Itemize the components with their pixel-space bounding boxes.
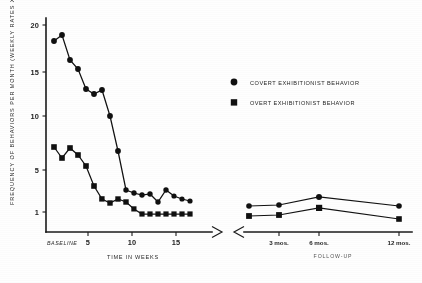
followup-tick-label-12mos: 12 mos. bbox=[387, 239, 410, 246]
x-axis-arrow-icon bbox=[212, 227, 222, 238]
y-tick-label-5: 5 bbox=[35, 166, 39, 175]
y-tick-label-10: 10 bbox=[30, 112, 39, 121]
followup-tick-label-6mos: 6 mos. bbox=[309, 239, 329, 246]
followup-panel-title: FOLLOW-UP bbox=[314, 253, 353, 259]
chart-canvas: 20 15 10 5 1 FREQUENCY OF BEHAVIORS PER … bbox=[0, 0, 422, 283]
series-covert-followup bbox=[246, 194, 402, 209]
series-covert-treatment bbox=[51, 32, 193, 205]
followup-axis-arrow-icon bbox=[234, 227, 244, 238]
figure-container: 20 15 10 5 1 FREQUENCY OF BEHAVIORS PER … bbox=[0, 0, 422, 283]
data-point-group-covert bbox=[51, 32, 193, 205]
legend-label-covert: COVERT EXHIBITIONIST BEHAVIOR bbox=[250, 80, 360, 86]
x-axis-title: TIME IN WEEKS bbox=[107, 254, 159, 260]
chart-legend: COVERT EXHIBITIONIST BEHAVIOR OVERT EXHI… bbox=[231, 79, 360, 107]
legend-square-marker-icon bbox=[231, 99, 237, 105]
legend-circle-marker-icon bbox=[231, 79, 238, 86]
data-point-group-covert-followup bbox=[246, 194, 402, 209]
series-overt-treatment bbox=[51, 144, 192, 216]
y-tick-label-20: 20 bbox=[30, 21, 39, 30]
x-tick-label-5: 5 bbox=[86, 238, 90, 247]
y-tick-label-1: 1 bbox=[35, 208, 39, 217]
baseline-label: BASELINE bbox=[47, 240, 77, 246]
followup-tick-label-3mos: 3 mos. bbox=[269, 239, 289, 246]
followup-axes bbox=[234, 227, 412, 238]
series-overt-followup bbox=[246, 205, 402, 222]
x-tick-label-10: 10 bbox=[128, 238, 137, 247]
treatment-axes bbox=[46, 18, 222, 238]
data-point-group-overt bbox=[51, 144, 192, 216]
legend-label-overt: OVERT EXHIBITIONIST BEHAVIOR bbox=[250, 100, 355, 106]
data-point-group-overt-followup bbox=[246, 205, 402, 222]
x-tick-label-15: 15 bbox=[172, 238, 181, 247]
y-axis-title: FREQUENCY OF BEHAVIORS PER MONTH (WEEKLY… bbox=[9, 0, 15, 205]
y-tick-label-15: 15 bbox=[30, 68, 39, 77]
